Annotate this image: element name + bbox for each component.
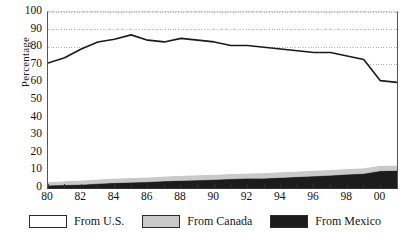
y-axis-tick-labels: 0102030405060708090100 (0, 0, 46, 200)
y-tick-label: 80 (31, 40, 43, 52)
y-tick-label: 50 (31, 93, 43, 105)
x-tick-label: 88 (174, 190, 186, 202)
plot-svg (48, 12, 397, 188)
y-tick-label: 20 (31, 146, 43, 158)
stacked-area-chart-figure: Percentage 0102030405060708090100 808284… (0, 0, 410, 233)
legend-swatch-icon (142, 215, 180, 228)
legend-label: From Canada (187, 214, 252, 229)
y-tick-label: 10 (31, 164, 43, 176)
y-tick-label: 40 (31, 111, 43, 123)
x-tick-label: 96 (307, 190, 319, 202)
x-tick-label: 92 (241, 190, 253, 202)
x-tick-label: 98 (340, 190, 352, 202)
plot-area (47, 11, 398, 189)
chart-legend: From U.S.From CanadaFrom Mexico (0, 210, 410, 233)
y-tick-label: 60 (31, 76, 43, 88)
y-tick-label: 70 (31, 58, 43, 70)
x-axis-tick-labels: 8082848688909294969800 (47, 190, 396, 208)
x-tick-label: 90 (207, 190, 219, 202)
legend-swatch-icon (29, 215, 67, 228)
y-tick-label: 30 (31, 128, 43, 140)
y-tick-label: 90 (31, 23, 43, 35)
legend-swatch-icon (270, 215, 308, 228)
y-tick-label: 100 (25, 5, 42, 17)
x-tick-label: 94 (274, 190, 286, 202)
x-tick-label: 84 (108, 190, 120, 202)
x-tick-label: 00 (374, 190, 386, 202)
legend-label: From Mexico (315, 214, 381, 229)
legend-label: From U.S. (74, 214, 124, 229)
legend-item[interactable]: From U.S. (29, 214, 124, 229)
x-tick-label: 82 (74, 190, 86, 202)
x-tick-label: 80 (41, 190, 53, 202)
x-tick-label: 86 (141, 190, 153, 202)
legend-item[interactable]: From Canada (142, 214, 252, 229)
legend-item[interactable]: From Mexico (270, 214, 381, 229)
stacked-area-bands (48, 35, 397, 188)
